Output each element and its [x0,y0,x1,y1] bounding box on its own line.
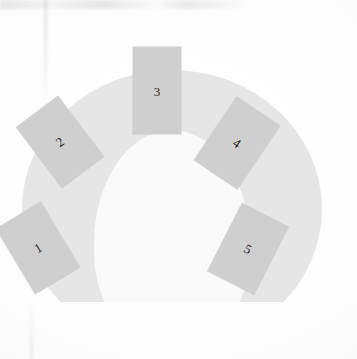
card-2-label: 2 [53,135,66,149]
card-arc-scene: 1 2 3 4 5 [0,0,357,359]
card-1-label: 1 [32,241,44,255]
card-3[interactable]: 3 [133,47,181,134]
scan-artifact-streak-bottom [30,300,33,359]
card-3-label: 3 [154,84,161,97]
card-4-label: 4 [231,136,244,150]
card-5-label: 5 [242,242,254,257]
